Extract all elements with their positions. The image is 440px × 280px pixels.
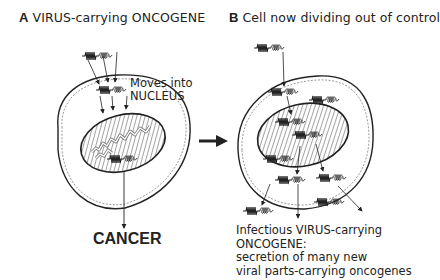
virus-oncogene-icon <box>268 88 298 96</box>
virus-oncogene-icon <box>96 86 126 94</box>
virus-oncogene-icon <box>309 96 339 104</box>
caption-line-3: secretion of many new <box>236 251 412 265</box>
caption-line-2: ONCOGENE: <box>236 238 412 252</box>
virus-oncogene-icon <box>275 176 305 184</box>
virus-oncogene-icon <box>82 52 112 60</box>
virus-oncogene-icon <box>316 174 346 182</box>
infectious-virus-caption: Infectious VIRUS-carrying ONCOGENE: secr… <box>236 224 412 278</box>
virus-oncogene-icon <box>314 198 344 206</box>
caption-line-4: viral parts-carrying oncogenes <box>236 265 412 279</box>
cancer-label: CANCER <box>93 232 161 246</box>
caption-line-1: Infectious VIRUS-carrying <box>236 224 412 238</box>
virus-oncogene-icon <box>254 44 284 52</box>
transition-arrow-icon <box>199 135 228 147</box>
moves-into-nucleus-label: Moves into NUCLEUS <box>130 77 193 103</box>
annotation-line-2: NUCLEUS <box>130 90 193 103</box>
panel-a-nucleus <box>74 105 172 181</box>
virus-oncogene-icon <box>243 207 273 215</box>
panel-b-nucleus <box>252 95 355 175</box>
